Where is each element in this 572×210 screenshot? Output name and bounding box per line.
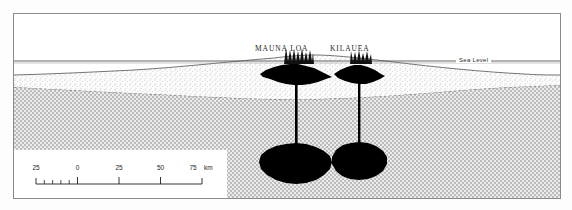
scale-tick-label-0: 25 [32,164,39,171]
scale-tick-label-2: 25 [115,164,122,171]
mauna-loa-conduit [295,83,298,145]
label-kilauea: KILAUEA [330,44,370,53]
scale-unit-label: km [204,164,213,171]
scale-bar-panel: 25 0 25 50 75 km [14,150,227,198]
label-mauna-loa: MAUNA LOA [255,44,308,53]
label-sea-level: Sea Level [456,57,491,63]
scale-tick-label-4: 75 [189,164,196,171]
kilauea-conduit [358,82,360,144]
kilauea-shallow-reservoir [334,65,385,84]
scale-tick-label-1: 0 [76,164,80,171]
scale-tick-label-3: 50 [157,164,164,171]
figure-frame: MAUNA LOA KILAUEA Sea Level [13,13,561,199]
mauna-loa-shallow-reservoir [260,64,332,85]
scale-bar-graphic [14,150,227,198]
kilauea-deep-magma-body [332,142,387,180]
figure-canvas: MAUNA LOA KILAUEA Sea Level [0,0,572,210]
mauna-loa-deep-magma-body [259,143,332,184]
